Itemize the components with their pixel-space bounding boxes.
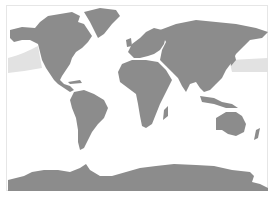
asia: [160, 20, 268, 92]
new-zealand: [254, 128, 260, 140]
europe: [128, 28, 166, 58]
antarctica: [8, 164, 268, 191]
caribbean: [68, 80, 82, 84]
south-america: [70, 90, 108, 150]
north-america: [10, 12, 92, 92]
indonesia: [200, 96, 238, 108]
australia: [216, 112, 246, 136]
madagascar: [163, 106, 168, 120]
british-isles: [126, 38, 132, 47]
world-map: [0, 0, 273, 198]
